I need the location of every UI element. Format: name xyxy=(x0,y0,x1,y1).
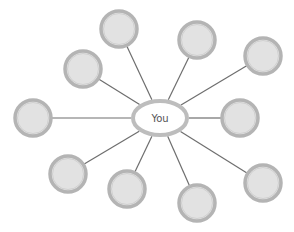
node-circle xyxy=(50,156,86,192)
node-circle xyxy=(245,38,281,74)
node-circle xyxy=(179,185,215,221)
node-circle xyxy=(245,165,281,201)
connector-line-node-upper-left xyxy=(99,79,140,104)
connector-line-node-lower-right xyxy=(181,132,247,173)
node-left xyxy=(15,100,51,136)
node-top-right xyxy=(179,22,215,58)
node-lower-left xyxy=(50,156,86,192)
node-circle xyxy=(109,171,145,207)
node-circle xyxy=(179,22,215,58)
node-upper-left xyxy=(65,51,101,87)
hub-node-you: You xyxy=(133,101,187,135)
node-far-upper-right xyxy=(245,38,281,74)
node-circle xyxy=(65,51,101,87)
node-right xyxy=(222,100,258,136)
node-bottom-center-right xyxy=(179,185,215,221)
hub-label: You xyxy=(150,113,168,124)
node-circle xyxy=(222,100,258,136)
network-diagram: You xyxy=(0,0,294,232)
connector-line-node-bottom-center-left xyxy=(135,136,152,172)
node-circle xyxy=(101,11,137,47)
node-circle xyxy=(15,100,51,136)
connector-line-node-lower-left xyxy=(84,131,139,164)
connector-line-node-top-center xyxy=(127,46,152,100)
connector-line-node-bottom-center-right xyxy=(168,136,190,185)
node-lower-right xyxy=(245,165,281,201)
node-bottom-center-left xyxy=(109,171,145,207)
node-top-center xyxy=(101,11,137,47)
connector-line-node-top-right xyxy=(168,57,189,100)
